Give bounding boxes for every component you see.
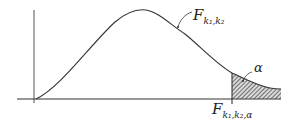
curve-label-leader [178, 12, 192, 27]
f-distribution-diagram: Fk₁,k₂ α Fk₁,k₂,α [0, 0, 297, 121]
alpha-label: α [254, 60, 263, 75]
curve-label: Fk₁,k₂ [192, 6, 225, 26]
